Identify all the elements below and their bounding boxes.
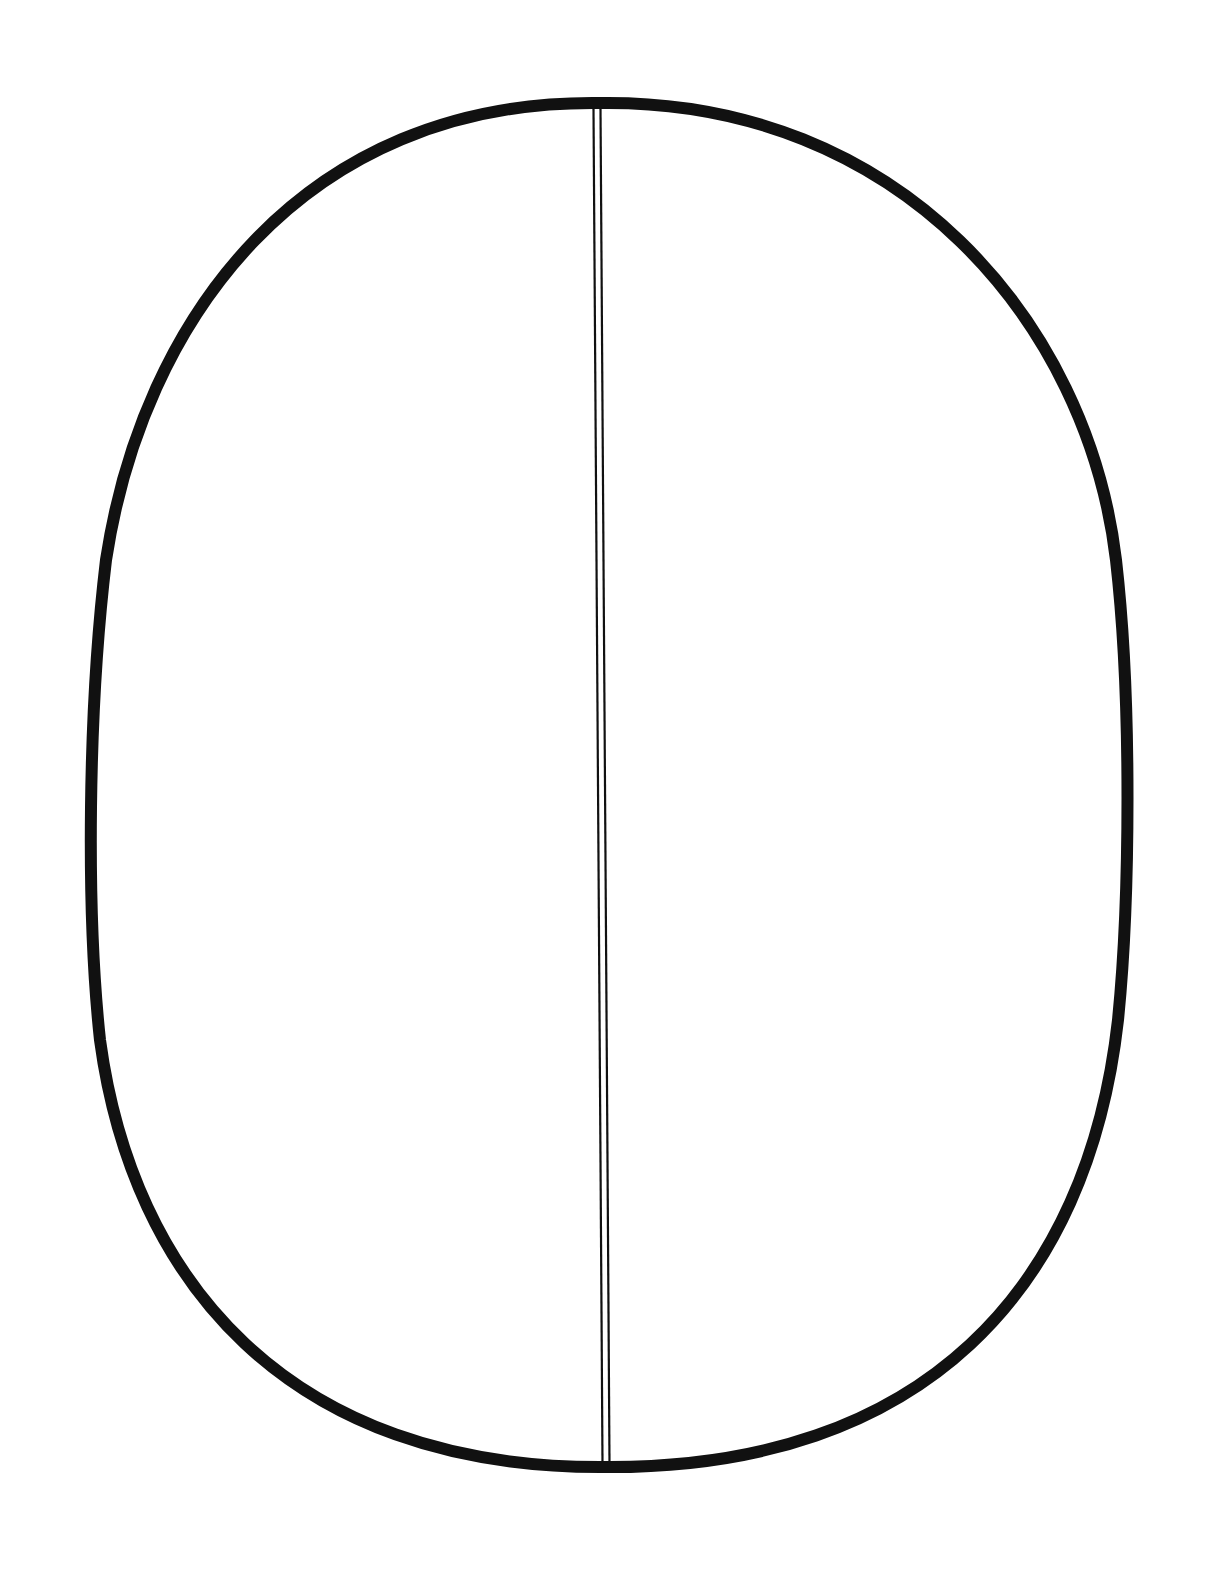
oval-diagram [0,0,1210,1579]
